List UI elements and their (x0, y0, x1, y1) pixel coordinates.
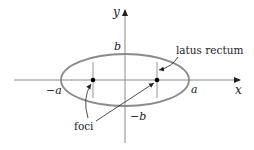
foci-label: foci (74, 120, 94, 132)
diagram-canvas: y x b −b −a a latus rectum foci (0, 0, 254, 150)
focus-left-point (91, 78, 96, 83)
x-axis-label: x (235, 83, 242, 97)
a-right-label: a (191, 83, 198, 96)
a-left-label: −a (46, 84, 62, 97)
y-axis-label: y (112, 5, 120, 19)
b-bottom-label: −b (130, 110, 146, 123)
focus-right-point (155, 78, 160, 83)
b-top-label: b (114, 40, 121, 53)
latus-rectum-label: latus rectum (176, 44, 243, 56)
ellipse-diagram: y x b −b −a a latus rectum foci (0, 0, 254, 150)
